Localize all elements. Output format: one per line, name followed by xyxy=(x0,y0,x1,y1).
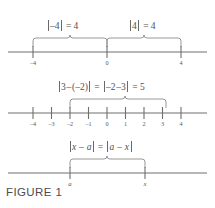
brace-a-to-x xyxy=(70,156,145,168)
expr-var-x: x xyxy=(72,142,76,152)
tick-label2-one: 1 xyxy=(124,120,127,127)
abs-bar-left-icon xyxy=(104,81,105,92)
abs-bar-left-icon xyxy=(48,20,49,31)
tick-label3-x: x xyxy=(142,180,146,187)
brace-neg-four-to-zero xyxy=(33,35,107,47)
abs-bar-right-icon xyxy=(93,141,94,152)
tick-label-zero: 0 xyxy=(105,59,108,66)
abs-bar-left-icon xyxy=(130,20,131,31)
expr-distance: 3 – (–2) = –2 –3 = 5 xyxy=(57,81,145,93)
abs-bar-right-icon xyxy=(138,20,139,31)
tick-label2-two: 2 xyxy=(142,120,145,127)
expr-abs-four: 4 = 4 xyxy=(128,20,156,32)
abs-bar-right-icon xyxy=(131,141,132,152)
expr-minus-1: – xyxy=(77,142,87,152)
figure-graphic: –4 0 4 –4 –3 –2 –1 0 1 2 3 4 xyxy=(0,0,215,208)
expr-var-a-2: a xyxy=(110,142,115,152)
expr-minus-2: – xyxy=(115,142,125,152)
expr-abs-neg-four: –4 = 4 xyxy=(46,20,78,32)
tick-label2-neg-two: –2 xyxy=(66,120,73,127)
expr-distance-result: = 5 xyxy=(130,82,145,92)
abs-bar-left-icon xyxy=(107,141,108,152)
brace-zero-to-four xyxy=(107,35,181,47)
abs-bar-left-icon xyxy=(70,141,71,152)
abs-bar-right-icon xyxy=(61,20,62,31)
expr-var-a: a xyxy=(87,142,92,152)
abs-bar-left-icon xyxy=(59,81,60,92)
expr-equals: = xyxy=(95,142,105,152)
abs-bar-right-icon xyxy=(127,81,128,92)
expr-distance-second: –2 –3 xyxy=(106,82,126,92)
abs-bar-right-icon xyxy=(89,81,90,92)
tick-label-four: 4 xyxy=(179,59,182,66)
tick-label3-a: a xyxy=(68,180,72,187)
brace-negtwo-to-three xyxy=(70,96,166,108)
panel-abs-four: –4 0 4 xyxy=(8,35,207,66)
expr-abs-x-minus-a: x – a = a – x xyxy=(68,141,133,153)
expr-distance-equals-1: = xyxy=(92,82,102,92)
tick-label2-neg-one: –1 xyxy=(84,120,91,127)
tick-label2-four: 4 xyxy=(179,120,182,127)
tick-label-neg-four: –4 xyxy=(29,59,36,66)
tick-label2-zero: 0 xyxy=(105,120,108,127)
expr-abs-four-result: = 4 xyxy=(141,21,156,31)
expr-abs-four-value: 4 xyxy=(132,21,137,31)
expr-distance-first: 3 – (–2) xyxy=(61,82,88,92)
panel-distance: –4 –3 –2 –1 0 1 2 3 4 xyxy=(8,96,207,127)
expr-var-x-2: x xyxy=(125,142,129,152)
tick-label2-neg-four: –4 xyxy=(29,120,36,127)
tick-label2-three: 3 xyxy=(161,120,164,127)
expr-abs-neg-four-value: –4 xyxy=(50,21,60,31)
tick-label2-neg-three: –3 xyxy=(47,120,54,127)
figure-container: –4 0 4 –4 –3 –2 –1 0 1 2 3 4 xyxy=(0,0,215,208)
figure-caption: FIGURE 1 xyxy=(6,186,62,198)
panel-abs-x-minus-a: a x xyxy=(8,156,207,187)
expr-abs-neg-four-result: = 4 xyxy=(64,21,79,31)
